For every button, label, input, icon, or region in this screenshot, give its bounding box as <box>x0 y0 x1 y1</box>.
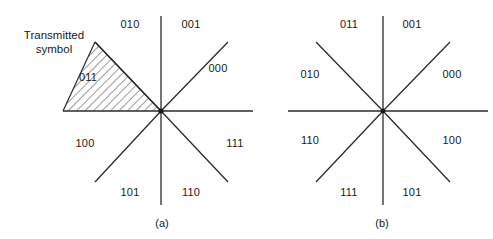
panel-a-caption: (a) <box>155 217 168 230</box>
panel-a-sector-label-100: 100 <box>76 137 95 150</box>
panel-b-diagonal-ne <box>383 42 450 111</box>
panel-a-diagonal-sw <box>95 111 161 182</box>
panel-b-caption: (b) <box>375 217 388 230</box>
panel-b-sector-label-010: 010 <box>301 68 320 81</box>
panel-a-sector-label-010: 010 <box>121 18 140 31</box>
panel-a-sector-label-000: 000 <box>209 62 228 75</box>
panel-b-diagonal-se <box>383 111 450 182</box>
panel-b-sector-label-011: 011 <box>340 18 358 31</box>
panel-a-sector-label-001: 001 <box>182 18 201 31</box>
panel-b-diagonal-nw <box>316 42 383 111</box>
transmitted-symbol-annotation: Transmitted symbol <box>24 28 84 56</box>
signal-constellation-figure: 010 001 000 111 110 101 100 011 Transmit… <box>0 0 493 239</box>
panel-b-sector-label-100: 100 <box>443 134 462 147</box>
transmitted-symbol-annotation-line1: Transmitted <box>24 28 84 42</box>
panel-b-sector-label-111: 111 <box>340 186 357 199</box>
panel-b-sector-label-101: 101 <box>403 186 422 199</box>
panel-b-sector-label-001: 001 <box>403 18 422 31</box>
panel-a-sector-label-111: 111 <box>226 137 243 150</box>
panel-a-origin-point <box>158 108 163 113</box>
panel-a-sector-label-011: 011 <box>79 71 97 84</box>
panel-b-origin-point <box>381 109 386 114</box>
panel-a-diagonal-se <box>161 111 228 182</box>
panel-b-sector-label-000: 000 <box>443 68 462 81</box>
panel-b-axes <box>288 16 488 205</box>
panel-b-sector-label-110: 110 <box>301 134 319 147</box>
transmitted-symbol-annotation-line2: symbol <box>24 42 84 56</box>
panel-a-sector-label-101: 101 <box>121 186 140 199</box>
panel-b-diagonal-sw <box>316 111 383 182</box>
panel-a-sector-label-110: 110 <box>182 186 200 199</box>
panel-a-diagonal-ne <box>161 42 228 111</box>
